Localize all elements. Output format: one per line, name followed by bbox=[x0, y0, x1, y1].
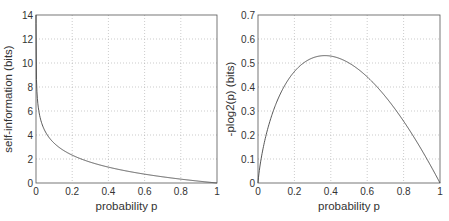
x-axis-label: probability p bbox=[318, 200, 380, 212]
series-line bbox=[36, 15, 217, 183]
y-axis-label: -plog2(p) (bits) bbox=[224, 61, 236, 136]
x-tick-label: 0.6 bbox=[138, 186, 152, 197]
y-tick-label: 0.5 bbox=[241, 58, 255, 69]
y-tick-label: 0.2 bbox=[241, 130, 255, 141]
series-line bbox=[258, 56, 440, 183]
y-tick-label: 0.1 bbox=[241, 154, 255, 165]
x-tick-label: 0.2 bbox=[65, 186, 79, 197]
x-tick-label: 0.8 bbox=[397, 186, 411, 197]
y-tick-label: 2 bbox=[27, 154, 33, 165]
y-tick-label: 4 bbox=[27, 130, 33, 141]
x-tick-label: 0 bbox=[255, 186, 261, 197]
x-tick-label: 0.2 bbox=[287, 186, 301, 197]
y-tick-label: 0.3 bbox=[241, 106, 255, 117]
y-tick-label: 0.4 bbox=[241, 82, 255, 93]
y-tick-label: 8 bbox=[27, 82, 33, 93]
entropy-term-chart: 00.20.40.60.8100.10.20.30.40.50.60.7prob… bbox=[224, 10, 443, 213]
x-tick-label: 1 bbox=[214, 186, 220, 197]
x-axis-label: probability p bbox=[95, 200, 157, 212]
y-tick-label: 0.6 bbox=[241, 34, 255, 45]
x-tick-label: 0.4 bbox=[324, 186, 338, 197]
axes-frame bbox=[36, 15, 217, 183]
y-tick-label: 6 bbox=[27, 106, 33, 117]
x-tick-label: 0 bbox=[33, 186, 39, 197]
y-tick-label: 0 bbox=[249, 178, 255, 189]
axes-frame bbox=[258, 15, 440, 183]
x-tick-label: 0.4 bbox=[101, 186, 115, 197]
x-tick-label: 1 bbox=[437, 186, 443, 197]
figure: 00.20.40.60.8102468101214probability pse… bbox=[0, 0, 449, 221]
y-tick-label: 14 bbox=[22, 10, 34, 21]
x-tick-label: 0.6 bbox=[360, 186, 374, 197]
y-axis-label: self-information (bits) bbox=[2, 45, 14, 153]
y-tick-label: 0.7 bbox=[241, 10, 255, 21]
x-tick-label: 0.8 bbox=[174, 186, 188, 197]
self-information-chart: 00.20.40.60.8102468101214probability pse… bbox=[2, 10, 220, 213]
y-tick-label: 12 bbox=[22, 34, 34, 45]
y-tick-label: 10 bbox=[22, 58, 34, 69]
y-tick-label: 0 bbox=[27, 178, 33, 189]
